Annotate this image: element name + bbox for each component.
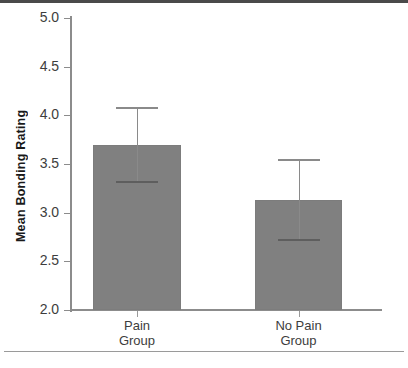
y-tick-label: 3.0 [40,204,59,220]
y-axis-title: Mean Bonding Rating [14,96,32,256]
y-tick: 2.0 [64,310,71,311]
x-tick-label: No PainGroup [239,318,359,348]
y-tick-mark [64,18,71,19]
error-bar-line [299,159,300,239]
x-tick-mark [137,311,138,317]
chart-figure: Mean Bonding Rating 5.04.54.03.53.02.52.… [0,0,408,368]
y-tick-label: 5.0 [40,9,59,25]
figure-bottom-rule [4,351,404,352]
x-tick-mark [299,311,300,317]
x-tick-label-line: Pain [77,318,197,333]
x-tick-label-line: Group [77,333,197,348]
y-tick: 4.0 [64,115,71,116]
y-tick-mark [64,67,71,68]
y-tick: 2.5 [64,261,71,262]
y-tick: 5.0 [64,18,71,19]
figure-top-rule [0,0,408,3]
error-bar-cap-lower [278,239,320,241]
error-bar-cap-lower [116,181,158,183]
y-tick-label: 2.5 [40,252,59,268]
error-bar-cap-upper [116,107,158,109]
x-tick-label-line: No Pain [239,318,359,333]
y-tick-label: 2.0 [40,301,59,317]
y-tick: 4.5 [64,67,71,68]
y-tick: 3.5 [64,164,71,165]
error-bar-line [137,107,138,181]
y-tick-mark [64,115,71,116]
y-tick-mark [64,261,71,262]
y-tick-mark [64,213,71,214]
y-tick-label: 4.0 [40,106,59,122]
y-tick: 3.0 [64,213,71,214]
y-tick-mark [64,164,71,165]
y-tick-label: 4.5 [40,58,59,74]
x-tick-label: PainGroup [77,318,197,348]
y-tick-mark [64,310,71,311]
y-tick-label: 3.5 [40,155,59,171]
error-bar-cap-upper [278,159,320,161]
x-tick-label-line: Group [239,333,359,348]
